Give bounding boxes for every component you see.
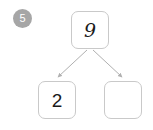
arrow-to-left-child [58, 50, 87, 77]
arrow-to-right-child [93, 50, 122, 77]
number-bond-child-box-1[interactable]: 2 [38, 81, 76, 119]
parent-value: 9 [84, 21, 96, 40]
child-1-value: 2 [52, 91, 63, 110]
number-bond-parent-box[interactable]: 9 [71, 11, 109, 49]
worksheet-canvas: 5 9 2 [0, 0, 153, 130]
number-bond-child-box-2[interactable] [104, 81, 142, 119]
